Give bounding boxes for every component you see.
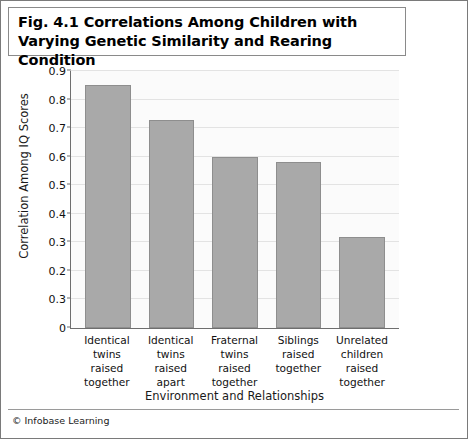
bar — [339, 237, 385, 328]
x-category-line: twins raised — [77, 347, 137, 375]
bar-slot — [76, 71, 140, 328]
x-category-line: together — [268, 361, 328, 375]
bar-series — [71, 71, 399, 328]
x-category-line: children raised — [332, 347, 392, 375]
credit-line: © Infobase Learning — [12, 415, 109, 426]
x-category-line: Identical — [77, 333, 137, 347]
y-tick-label: 0.7 — [49, 122, 67, 135]
bar — [212, 157, 258, 328]
y-tick-label: 0.9 — [49, 65, 67, 78]
x-axis-category-labels: Identicaltwins raisedtogetherIdenticaltw… — [70, 333, 399, 389]
bar — [276, 162, 322, 328]
x-category-line: Fraternal — [205, 333, 265, 347]
x-category-line: twins raised — [141, 347, 201, 375]
y-tick-label: 0.5 — [49, 179, 67, 192]
x-axis-title: Environment and Relationships — [8, 389, 461, 403]
x-category-label: Siblingsraisedtogether — [266, 333, 330, 389]
y-axis-title: Correlation Among IQ Scores — [17, 76, 31, 276]
y-tick-label: 0.2 — [49, 264, 67, 277]
x-category-line: together — [332, 375, 392, 389]
bar-slot — [330, 71, 394, 328]
y-tick-label: 0 — [59, 322, 66, 335]
bar — [149, 120, 195, 328]
x-category-line: apart — [141, 375, 201, 389]
figure-title-box: Fig. 4.1 Correlations Among Children wit… — [8, 7, 406, 56]
x-category-label: Identicaltwins raisedapart — [139, 333, 203, 389]
y-tick-label: 0.3 — [49, 236, 67, 249]
figure-page: Fig. 4.1 Correlations Among Children wit… — [0, 0, 468, 439]
bar — [85, 85, 131, 328]
plot-wrapper: 00.30.20.30.40.50.60.70.80.9 — [70, 71, 399, 329]
x-category-label: Fraternaltwins raisedtogether — [203, 333, 267, 389]
x-category-line: together — [77, 375, 137, 389]
footer-divider — [8, 409, 459, 410]
x-category-line: Identical — [141, 333, 201, 347]
y-tick-label: 0.4 — [49, 207, 67, 220]
x-category-label: Unrelatedchildren raisedtogether — [330, 333, 394, 389]
y-tick-label: 0.6 — [49, 150, 67, 163]
x-category-line: Unrelated — [332, 333, 392, 347]
x-category-line: Siblings — [268, 333, 328, 347]
y-tick-label: 0.3 — [49, 293, 67, 306]
plot-area: 00.30.20.30.40.50.60.70.80.9 — [70, 71, 399, 329]
bar-slot — [267, 71, 331, 328]
x-category-line: twins raised — [205, 347, 265, 375]
x-category-line: together — [205, 375, 265, 389]
x-category-line: raised — [268, 347, 328, 361]
bar-slot — [140, 71, 204, 328]
bar-slot — [203, 71, 267, 328]
x-category-label: Identicaltwins raisedtogether — [75, 333, 139, 389]
chart-container: Correlation Among IQ Scores 00.30.20.30.… — [8, 61, 461, 406]
y-tick-label: 0.8 — [49, 93, 67, 106]
